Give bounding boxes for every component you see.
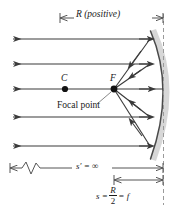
- reflected-ray-2-arrow: [131, 70, 141, 77]
- image-distance-label: s = R 2 = f: [96, 186, 129, 206]
- fraction-numerator: R: [109, 186, 117, 195]
- concave-mirror-diagram: R (positive) C F Focal point s′ = ∞ s = …: [0, 0, 173, 215]
- center-of-curvature-dot: [62, 86, 68, 92]
- center-of-curvature-label: C: [61, 74, 67, 84]
- mirror-backing-shade: [150, 29, 170, 161]
- radius-over-two-fraction: R 2: [109, 186, 117, 206]
- focal-point-dot: [111, 86, 118, 93]
- reflected-ray-5-arrow: [131, 121, 142, 136]
- radius-label: R (positive): [76, 10, 120, 20]
- image-distance-suffix: = f: [118, 192, 129, 201]
- image-distance-prefix: s =: [96, 192, 108, 201]
- fraction-denominator: 2: [110, 197, 117, 206]
- object-distance-label: s′ = ∞: [74, 162, 100, 171]
- reflected-ray-4-arrow: [131, 102, 141, 110]
- focus-label: F: [110, 74, 116, 84]
- focal-point-text: Focal point: [57, 101, 100, 111]
